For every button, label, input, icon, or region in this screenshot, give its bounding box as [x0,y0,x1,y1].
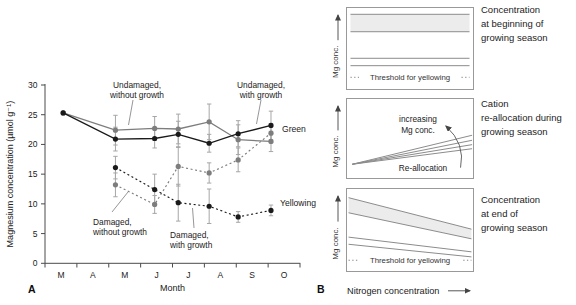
svg-text:M: M [57,270,64,280]
svg-text:20: 20 [28,139,38,149]
svg-text:J: J [186,270,190,280]
svg-text:Mg conc.: Mg conc. [331,46,340,78]
caption-line: growing season [481,125,575,139]
caption-end: Concentration at end of growing season [481,193,575,235]
svg-text:A: A [90,270,96,280]
svg-text:J: J [154,270,158,280]
panel-b-label: B [317,283,325,295]
svg-text:30: 30 [28,80,38,90]
svg-text:Yellowing: Yellowing [280,198,316,208]
panel-a-label: A [28,283,36,295]
caption-line: growing season [481,221,575,235]
svg-text:O: O [281,270,288,280]
schematic-cation-reallocation: Mg conc.increasingMg conc.Re-allocation [330,98,480,180]
svg-text:M: M [121,270,128,280]
svg-text:S: S [249,270,255,280]
svg-text:Threshold for yellowing: Threshold for yellowing [370,73,450,82]
svg-text:5: 5 [33,229,38,239]
svg-text:25: 25 [28,110,38,120]
schematic-end-of-season: Mg conc.Threshold for yellowingNitrogen … [330,188,480,301]
svg-text:Month: Month [160,283,185,293]
svg-text:Green: Green [282,124,306,134]
svg-text:Mg conc.: Mg conc. [331,227,340,259]
caption-line: growing season [481,31,575,45]
svg-text:Threshold for yellowing: Threshold for yellowing [370,256,450,265]
figure-root: 051015202530MAMJJASOMonthMagnesium conce… [0,0,576,305]
svg-text:Undamaged,with growth: Undamaged,with growth [237,80,285,100]
caption-line: Cation [481,97,575,111]
schematic-beginning-of-season: Mg conc.Threshold for yellowing [330,7,480,91]
caption-reallocation: Cation re-allocation during growing seas… [481,97,575,139]
svg-text:Damaged,without growth: Damaged,without growth [92,217,147,237]
svg-text:Nitrogen concentration: Nitrogen concentration [347,286,439,296]
caption-line: Concentration [481,3,575,17]
caption-line: Concentration [481,193,575,207]
caption-line: at beginning of [481,17,575,31]
svg-text:Damaged,with growth: Damaged,with growth [169,230,213,250]
svg-text:Magnesium concentration (µmol: Magnesium concentration (µmol g⁻¹) [5,101,15,248]
mg-time-series-chart: 051015202530MAMJJASOMonthMagnesium conce… [0,0,340,305]
svg-text:10: 10 [28,199,38,209]
svg-text:Re-allocation: Re-allocation [399,163,448,173]
svg-text:increasingMg conc.: increasingMg conc. [399,114,437,135]
svg-text:0: 0 [33,258,38,268]
svg-text:15: 15 [28,169,38,179]
svg-text:Undamaged,without growth: Undamaged,without growth [109,80,164,100]
svg-text:A: A [217,270,223,280]
caption-beginning: Concentration at beginning of growing se… [481,3,575,45]
svg-text:Mg conc.: Mg conc. [331,135,340,167]
caption-line: at end of [481,207,575,221]
caption-line: re-allocation during [481,111,575,125]
